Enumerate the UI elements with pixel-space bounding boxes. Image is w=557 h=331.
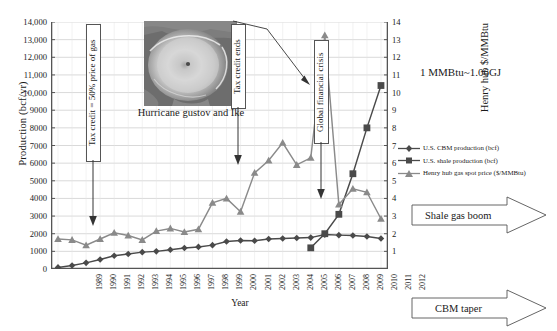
callout-tax-credit-start: Tax credit = 50% price of gas [86,24,101,162]
y-tick-left: 0 [5,265,47,273]
y-tick-left: 11,000 [5,71,47,79]
callout-global-financial-crisis-arrow [314,142,332,204]
x-tick-year: 1995 [180,274,188,308]
y-tick-left: 2000 [5,230,47,238]
x-tick-year: 2007 [349,274,357,308]
callout-tax-credit-start-arrow [86,160,104,230]
callout-tax-credit-ends-arrow [231,107,249,169]
legend-item-cbm: U.S. CBM production (bcf) [398,142,526,155]
x-tick-year: 1993 [152,274,160,308]
y-tick-right: 1 [392,247,412,255]
x-tick-year: 2008 [363,274,371,308]
diamond-marker-icon [398,144,420,153]
x-tick-year: 1996 [194,274,202,308]
x-tick-year: 2005 [321,274,329,308]
unit-conversion-note: 1 MMBtu~1.06GJ [420,66,501,78]
shale-gas-boom-label: Shale gas boom [411,196,557,234]
x-tick-year: 2009 [377,274,385,308]
y-tick-right: 8 [392,124,412,132]
y-tick-right: 14 [392,18,412,26]
photo-leader-line [232,19,314,87]
y-tick-left: 1000 [5,247,47,255]
cbm-taper-label: CBM taper [411,289,557,327]
x-tick-year: 1992 [138,274,146,308]
y-tick-left: 13,000 [5,36,47,44]
y-tick-right: 4 [392,194,412,202]
y-tick-left: 14,000 [5,18,47,26]
y-tick-right: 2 [392,230,412,238]
hurricane-satellite-image [144,21,237,106]
y-tick-left: 5000 [5,177,47,185]
y-tick-left: 8000 [5,124,47,132]
x-tick-year: 2006 [335,274,343,308]
x-tick-year: 1994 [166,274,174,308]
legend-label-shale: U.S. shale production (bcf) [423,155,498,168]
square-marker-icon [398,156,420,165]
callout-global-financial-crisis: Global financial crisis [314,40,329,144]
x-tick-year: 2004 [307,274,315,308]
y-tick-left: 12,000 [5,53,47,61]
y-tick-left: 7000 [5,142,47,150]
x-tick-year: 1997 [208,274,216,308]
triangle-marker-icon [398,169,420,178]
chart-legend: U.S. CBM production (bcf) U.S. shale pro… [398,142,526,180]
y-tick-left: 9000 [5,106,47,114]
x-tick-year: 1998 [222,274,230,308]
y-tick-right: 10 [392,89,412,97]
y-tick-left: 3000 [5,212,47,220]
y-tick-left: 6000 [5,159,47,167]
legend-label-cbm: U.S. CBM production (bcf) [423,142,499,155]
y-tick-right: 9 [392,106,412,114]
x-tick-year: 2000 [250,274,258,308]
cbm-taper-arrow: CBM taper [411,289,547,327]
legend-item-price: Henry hub gas spot price ($/MMBtu) [398,167,526,180]
x-tick-year: 1991 [124,274,132,308]
y-tick-right: 11 [392,71,412,79]
legend-item-shale: U.S. shale production (bcf) [398,155,526,168]
x-tick-year: 2010 [391,274,399,308]
x-tick-year: 2002 [279,274,287,308]
y-tick-left: 4000 [5,194,47,202]
x-tick-year: 1999 [236,274,244,308]
x-tick-year: 2001 [265,274,273,308]
y-tick-left: 10,000 [5,89,47,97]
y-tick-right: 13 [392,36,412,44]
legend-label-price: Henry hub gas spot price ($/MMBtu) [423,167,526,180]
y-tick-right: 12 [392,53,412,61]
y-tick-right: 3 [392,212,412,220]
x-tick-year: 1990 [110,274,118,308]
shale-gas-boom-arrow: Shale gas boom [411,196,547,234]
x-tick-year: 1989 [96,274,104,308]
x-tick-year: 2003 [293,274,301,308]
